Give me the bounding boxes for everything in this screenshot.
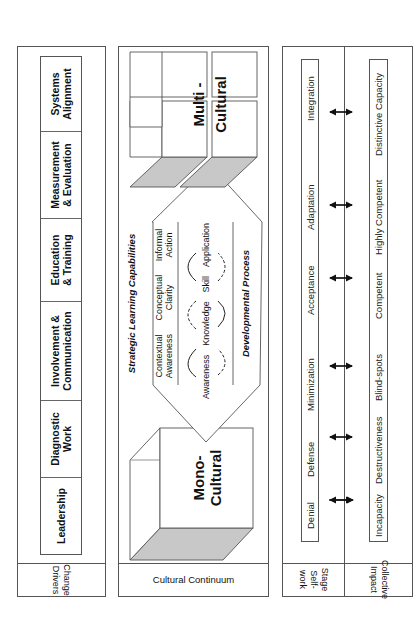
- stage-impact-arrows: [0, 0, 415, 627]
- cultural-change-diagram: Change Drivers Leadership Diagnostic Wor…: [0, 0, 415, 627]
